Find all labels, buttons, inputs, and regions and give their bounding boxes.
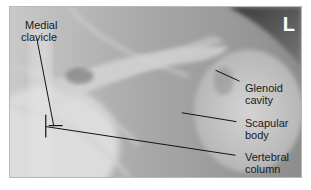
label-line: body (245, 129, 288, 141)
side-marker-label: L (283, 13, 295, 36)
radiograph-frame: L Medial clavicle Glenoid cavity Scapula… (9, 6, 302, 178)
label-line: cavity (245, 94, 283, 106)
label-line: Vertebral (245, 151, 289, 163)
label-scapular-body: Scapular body (245, 117, 288, 141)
label-medial-clavicle: Medial clavicle (21, 19, 57, 43)
xray-rib-space (66, 68, 94, 84)
label-line: clavicle (21, 31, 57, 43)
label-glenoid-cavity: Glenoid cavity (245, 82, 283, 106)
label-line: column (245, 163, 289, 175)
xray-glenoid (214, 67, 234, 95)
label-vertebral-column: Vertebral column (245, 151, 289, 175)
xray-vertebral-column (30, 27, 52, 177)
label-line: Scapular (245, 117, 288, 129)
label-line: Medial (21, 19, 57, 31)
label-line: Glenoid (245, 82, 283, 94)
